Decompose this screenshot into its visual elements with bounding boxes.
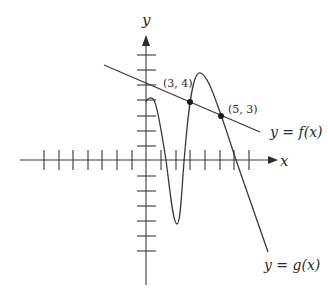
- point-label-3-4: (3, 4): [163, 77, 193, 90]
- g-curve-label: y = g(x): [263, 257, 320, 273]
- y-axis-arrow-icon: [142, 35, 150, 46]
- x-axis-arrow-icon: [268, 156, 278, 164]
- curve-g: [146, 73, 268, 252]
- point-label-5-3: (5, 3): [228, 103, 258, 116]
- intersection-point-3-4: [187, 99, 193, 105]
- x-axis-label: x: [280, 152, 289, 170]
- graph-figure: y x (3, 4) (5, 3) y = f(x) y = g(x): [0, 0, 328, 299]
- y-axis-label: y: [141, 11, 151, 29]
- f-curve-label: y = f(x): [269, 124, 323, 140]
- line-f: [104, 65, 260, 132]
- intersection-point-5-3: [218, 113, 224, 119]
